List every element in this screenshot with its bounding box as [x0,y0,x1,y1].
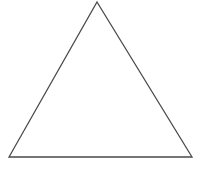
triangle-figure-canvas [0,0,205,178]
triangle-svg [0,0,205,178]
